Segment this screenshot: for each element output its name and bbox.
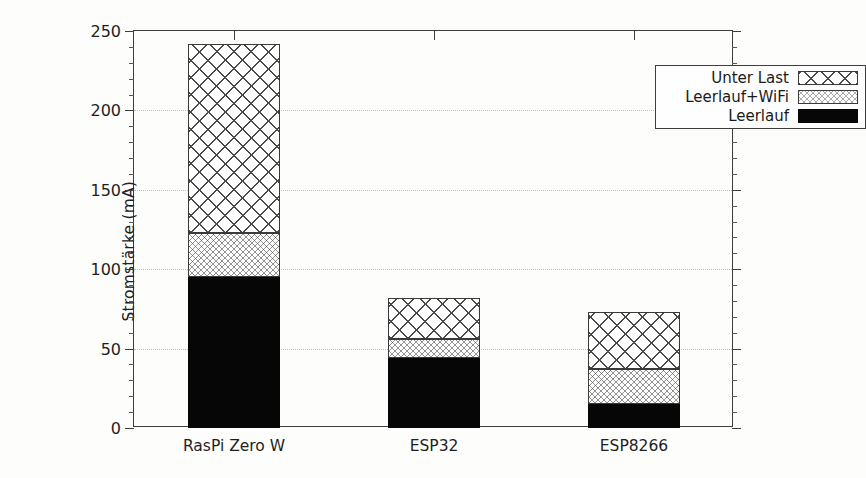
y-tick-minor bbox=[129, 158, 134, 159]
x-tick bbox=[634, 31, 635, 40]
x-tick-label: ESP8266 bbox=[600, 437, 668, 455]
y-tick-major bbox=[125, 269, 134, 270]
legend-entry-label: Leerlauf bbox=[728, 109, 789, 124]
y-tick-major-right bbox=[732, 31, 741, 32]
y-tick-label: 100 bbox=[90, 260, 121, 279]
y-tick-minor-right bbox=[732, 237, 737, 238]
x-tick-label: RasPi Zero W bbox=[183, 437, 285, 455]
y-tick-minor bbox=[129, 63, 134, 64]
y-tick-minor bbox=[129, 396, 134, 397]
y-tick-minor-right bbox=[732, 380, 737, 381]
y-tick-minor bbox=[129, 95, 134, 96]
y-tick-minor-right bbox=[732, 317, 737, 318]
y-tick-minor-right bbox=[732, 396, 737, 397]
bar-segment bbox=[388, 339, 480, 358]
legend-swatch bbox=[798, 71, 858, 85]
y-tick-minor-right bbox=[732, 174, 737, 175]
y-tick-major-right bbox=[732, 349, 741, 350]
x-tick bbox=[434, 31, 435, 40]
y-tick-major bbox=[125, 349, 134, 350]
bar-segment bbox=[388, 298, 480, 339]
y-tick-major bbox=[125, 31, 134, 32]
plot-area: Stromstärke (mA) 050100150200250 RasPi Z… bbox=[133, 30, 733, 427]
y-tick-minor bbox=[129, 237, 134, 238]
legend-entry: Unter Last bbox=[661, 69, 858, 87]
y-tick-minor bbox=[129, 317, 134, 318]
y-tick-minor bbox=[129, 285, 134, 286]
y-tick-minor-right bbox=[732, 285, 737, 286]
y-tick-minor-right bbox=[732, 412, 737, 413]
bar-segment bbox=[188, 233, 280, 277]
y-tick-minor bbox=[129, 174, 134, 175]
y-tick-major bbox=[125, 110, 134, 111]
y-tick-label: 0 bbox=[111, 419, 121, 438]
legend-swatch bbox=[798, 109, 858, 123]
y-tick-minor-right bbox=[732, 206, 737, 207]
legend-swatch bbox=[798, 90, 858, 104]
legend-entry: Leerlauf bbox=[661, 107, 858, 125]
y-tick-minor-right bbox=[732, 158, 737, 159]
y-tick-minor bbox=[129, 47, 134, 48]
y-tick-minor bbox=[129, 142, 134, 143]
y-tick-minor bbox=[129, 333, 134, 334]
y-tick-minor-right bbox=[732, 333, 737, 334]
legend-entry-label: Unter Last bbox=[711, 71, 789, 86]
y-tick-major bbox=[125, 428, 134, 429]
bar-segment bbox=[588, 369, 680, 404]
y-tick-minor bbox=[129, 126, 134, 127]
bar-segment bbox=[588, 404, 680, 428]
y-tick-label: 50 bbox=[101, 339, 121, 358]
y-tick-minor-right bbox=[732, 222, 737, 223]
y-tick-minor bbox=[129, 364, 134, 365]
y-tick-major-right bbox=[732, 269, 741, 270]
y-tick-minor bbox=[129, 412, 134, 413]
bar-segment bbox=[388, 358, 480, 428]
bar-segment bbox=[188, 44, 280, 233]
y-tick-minor-right bbox=[732, 47, 737, 48]
legend-entry: Leerlauf+WiFi bbox=[661, 88, 858, 106]
y-tick-minor bbox=[129, 301, 134, 302]
y-tick-major bbox=[125, 190, 134, 191]
y-tick-minor bbox=[129, 253, 134, 254]
y-tick-minor bbox=[129, 79, 134, 80]
y-tick-label: 150 bbox=[90, 180, 121, 199]
y-tick-minor-right bbox=[732, 253, 737, 254]
x-tick-label: ESP32 bbox=[410, 437, 459, 455]
y-tick-minor-right bbox=[732, 63, 737, 64]
chart-legend: Unter LastLeerlauf+WiFiLeerlauf bbox=[655, 65, 866, 129]
y-tick-major-right bbox=[732, 428, 741, 429]
y-tick-label: 250 bbox=[90, 22, 121, 41]
y-tick-minor bbox=[129, 206, 134, 207]
legend-entry-label: Leerlauf+WiFi bbox=[685, 90, 789, 105]
y-tick-major-right bbox=[732, 190, 741, 191]
bar-segment bbox=[188, 277, 280, 428]
x-tick bbox=[234, 31, 235, 40]
bar-segment bbox=[588, 312, 680, 369]
y-tick-minor bbox=[129, 380, 134, 381]
y-tick-minor-right bbox=[732, 301, 737, 302]
y-tick-minor bbox=[129, 222, 134, 223]
y-tick-minor-right bbox=[732, 142, 737, 143]
y-tick-minor-right bbox=[732, 364, 737, 365]
y-tick-label: 200 bbox=[90, 101, 121, 120]
